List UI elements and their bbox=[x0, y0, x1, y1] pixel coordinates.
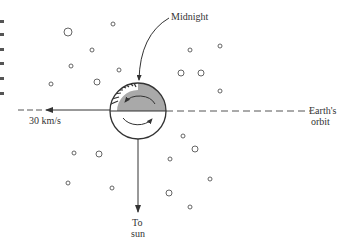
star-icon bbox=[110, 186, 114, 190]
star-icon bbox=[117, 68, 121, 72]
star-icon bbox=[192, 146, 198, 152]
to-sun-label-line1: To bbox=[132, 217, 142, 228]
to-sun-label-line2: sun bbox=[131, 228, 145, 239]
star-icon bbox=[166, 190, 172, 196]
star-icon bbox=[49, 82, 53, 86]
star-icon bbox=[69, 64, 73, 68]
star-icon bbox=[218, 44, 222, 48]
star-icon bbox=[96, 151, 102, 157]
star-icon bbox=[178, 70, 184, 76]
star-icon bbox=[218, 89, 222, 93]
earth-orbit-diagram: Midnight 30 km/s Earth's orbit To sun bbox=[0, 0, 350, 249]
star-icon bbox=[94, 79, 100, 85]
star-icon bbox=[90, 48, 94, 52]
star-icon bbox=[66, 181, 70, 185]
star-icon bbox=[198, 70, 204, 76]
star-icon bbox=[72, 151, 76, 155]
velocity-label: 30 km/s bbox=[29, 115, 61, 126]
star-icon bbox=[111, 22, 115, 26]
star-icon bbox=[208, 177, 212, 181]
midnight-label: Midnight bbox=[171, 11, 208, 22]
star-icon bbox=[64, 28, 72, 36]
earths-orbit-label-line2: orbit bbox=[311, 116, 330, 127]
earths-orbit-label-line1: Earth's bbox=[309, 105, 336, 116]
star-icon bbox=[188, 205, 192, 209]
star-icon bbox=[181, 134, 185, 138]
earth-icon bbox=[108, 81, 170, 139]
star-icon bbox=[188, 48, 192, 52]
star-icon bbox=[168, 157, 172, 161]
midnight-pointer-arrow bbox=[139, 18, 169, 80]
